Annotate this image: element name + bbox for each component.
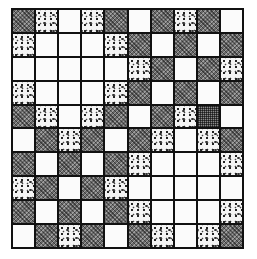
grid-cell-white-r3-c3 — [82, 82, 103, 104]
grid-cell-stippled-dots-r2-c5 — [129, 58, 150, 80]
grid-cell-white-r2-c7 — [175, 58, 196, 80]
grid-cell-white-r3-c2 — [59, 82, 80, 104]
grid-cell-stippled-dots-r5-c2 — [59, 129, 80, 151]
grid-cell-dark-checkered-r0-c0 — [13, 10, 34, 32]
grid-cell-white-r1-c1 — [36, 34, 57, 56]
grid-cell-dark-checkered-r3-c5 — [129, 82, 150, 104]
grid-cell-stippled-dots-r6-c5 — [129, 153, 150, 175]
grid-cell-dark-checkered-r6-c4 — [105, 153, 126, 175]
grid-cell-white-r9-c0 — [13, 225, 34, 247]
grid-cell-dark-checkered-r5-c1 — [36, 129, 57, 151]
grid-cell-white-r5-c0 — [13, 129, 34, 151]
grid-cell-dark-checkered-r3-c9 — [221, 82, 242, 104]
grid-cell-white-r7-c7 — [175, 177, 196, 199]
grid-cell-stippled-dots-r0-c1 — [36, 10, 57, 32]
grid-cell-stippled-dots-r4-c7 — [175, 106, 196, 128]
grid-cell-dark-checkered-r5-c3 — [82, 129, 103, 151]
grid-cell-white-r5-c7 — [175, 129, 196, 151]
grid-cell-white-r4-c5 — [129, 106, 150, 128]
grid-cell-dark-checkered-r1-c9 — [221, 34, 242, 56]
grid-cell-dark-checkered-r9-c1 — [36, 225, 57, 247]
grid-cell-stippled-dots-r3-c4 — [105, 82, 126, 104]
grid-cell-white-r3-c6 — [152, 82, 173, 104]
grid-cell-white-r3-c8 — [198, 82, 219, 104]
grid-cell-white-r1-c2 — [59, 34, 80, 56]
grid-cell-white-r0-c9 — [221, 10, 242, 32]
grid-cell-stippled-dots-r6-c9 — [221, 153, 242, 175]
grid-cell-white-r7-c9 — [221, 177, 242, 199]
grid-cell-white-r2-c4 — [105, 58, 126, 80]
grid-cell-white-r0-c2 — [59, 10, 80, 32]
grid-cell-dark-checkered-r2-c8 — [198, 58, 219, 80]
grid-cell-dark-checkered-r5-c9 — [221, 129, 242, 151]
grid-cell-dark-checkered-r9-c3 — [82, 225, 103, 247]
grid-cell-stippled-dots-r1-c0 — [13, 34, 34, 56]
grid-cell-dark-checkered-r0-c8 — [198, 10, 219, 32]
grid-cell-stippled-dots-r3-c0 — [13, 82, 34, 104]
grid-cell-fine-crosshatch-r4-c8 — [198, 106, 219, 128]
grid-cell-white-r7-c8 — [198, 177, 219, 199]
grid-cell-stippled-dots-r4-c1 — [36, 106, 57, 128]
grid-cell-stippled-dots-r0-c3 — [82, 10, 103, 32]
grid-cell-dark-checkered-r5-c5 — [129, 129, 150, 151]
grid-cell-white-r2-c1 — [36, 58, 57, 80]
grid-cell-white-r2-c0 — [13, 58, 34, 80]
grid-cell-dark-checkered-r4-c6 — [152, 106, 173, 128]
grid-cell-stippled-dots-r4-c3 — [82, 106, 103, 128]
grid-cell-white-r5-c4 — [105, 129, 126, 151]
grid-cell-dark-checkered-r3-c7 — [175, 82, 196, 104]
grid-cell-white-r8-c3 — [82, 201, 103, 223]
grid-cell-stippled-dots-r5-c8 — [198, 129, 219, 151]
grid-cell-white-r1-c3 — [82, 34, 103, 56]
grid-cell-dark-checkered-r8-c4 — [105, 201, 126, 223]
grid-cell-white-r8-c1 — [36, 201, 57, 223]
grid-cell-stippled-dots-r8-c9 — [221, 201, 242, 223]
grid-cell-white-r9-c7 — [175, 225, 196, 247]
grid-cell-dark-checkered-r2-c6 — [152, 58, 173, 80]
grid-cell-white-r7-c2 — [59, 177, 80, 199]
grid-cell-dark-checkered-r6-c2 — [59, 153, 80, 175]
grid-cell-white-r4-c9 — [221, 106, 242, 128]
grid-cell-dark-checkered-r8-c0 — [13, 201, 34, 223]
grid-cell-white-r6-c8 — [198, 153, 219, 175]
grid-cell-dark-checkered-r1-c5 — [129, 34, 150, 56]
grid-cell-stippled-dots-r9-c2 — [59, 225, 80, 247]
grid-cell-white-r8-c6 — [152, 201, 173, 223]
grid-cell-white-r6-c3 — [82, 153, 103, 175]
grid-cell-stippled-dots-r9-c8 — [198, 225, 219, 247]
grid-cell-white-r4-c2 — [59, 106, 80, 128]
grid-cell-dark-checkered-r4-c0 — [13, 106, 34, 128]
grid-cell-stippled-dots-r2-c9 — [221, 58, 242, 80]
grid-cell-stippled-dots-r1-c4 — [105, 34, 126, 56]
grid-cell-white-r6-c6 — [152, 153, 173, 175]
grid-cell-dark-checkered-r1-c7 — [175, 34, 196, 56]
grid-cell-white-r2-c2 — [59, 58, 80, 80]
grid-cell-stippled-dots-r0-c7 — [175, 10, 196, 32]
patterned-grid-board — [11, 8, 244, 249]
grid-cell-dark-checkered-r9-c9 — [221, 225, 242, 247]
grid-cell-white-r1-c6 — [152, 34, 173, 56]
grid-cell-stippled-dots-r9-c6 — [152, 225, 173, 247]
grid-cell-white-r8-c8 — [198, 201, 219, 223]
grid-cell-white-r9-c4 — [105, 225, 126, 247]
grid-cell-white-r0-c5 — [129, 10, 150, 32]
grid-cell-stippled-dots-r7-c0 — [13, 177, 34, 199]
grid-cell-stippled-dots-r8-c5 — [129, 201, 150, 223]
grid-cell-dark-checkered-r8-c2 — [59, 201, 80, 223]
grid-cell-white-r6-c7 — [175, 153, 196, 175]
grid-cell-dark-checkered-r7-c1 — [36, 177, 57, 199]
grid-cell-white-r8-c7 — [175, 201, 196, 223]
grid-cell-dark-checkered-r4-c4 — [105, 106, 126, 128]
grid-cell-dark-checkered-r9-c5 — [129, 225, 150, 247]
grid-cell-white-r2-c3 — [82, 58, 103, 80]
grid-cell-dark-checkered-r0-c4 — [105, 10, 126, 32]
grid-cell-white-r6-c1 — [36, 153, 57, 175]
grid-cell-white-r1-c8 — [198, 34, 219, 56]
grid-cell-white-r7-c5 — [129, 177, 150, 199]
grid-cell-stippled-dots-r7-c4 — [105, 177, 126, 199]
grid-cell-white-r7-c6 — [152, 177, 173, 199]
grid-cell-dark-checkered-r0-c6 — [152, 10, 173, 32]
grid-cell-white-r3-c1 — [36, 82, 57, 104]
grid-cell-dark-checkered-r6-c0 — [13, 153, 34, 175]
grid-cell-stippled-dots-r5-c6 — [152, 129, 173, 151]
